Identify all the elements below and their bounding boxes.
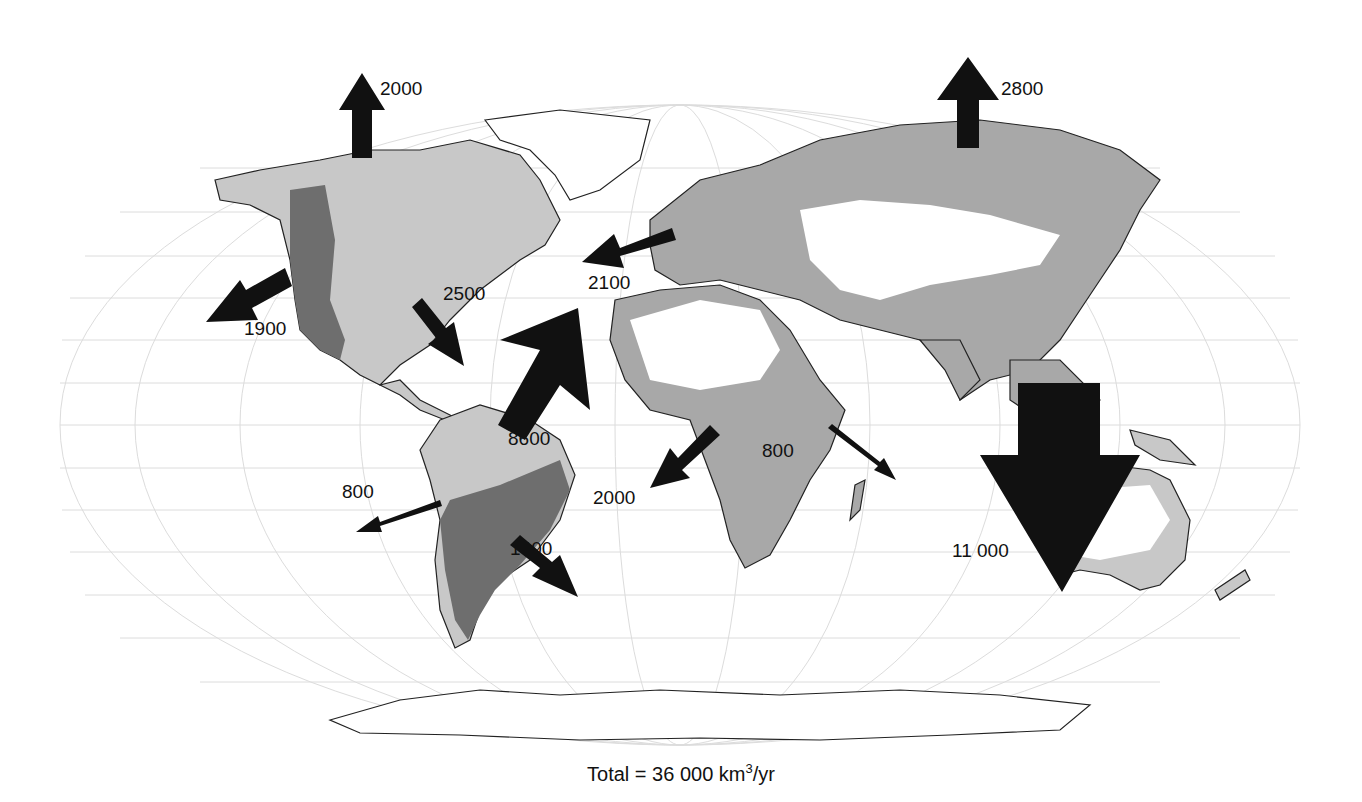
antarctica [330, 690, 1090, 740]
flow-label-south-america-south-atlantic: 1400 [510, 538, 552, 560]
arrow-africa-indian [828, 424, 896, 480]
caption-text: Total = 36 000 km [587, 763, 745, 785]
flow-label-europe-atlantic: 2100 [588, 272, 630, 294]
caption-superscript: 3 [745, 761, 752, 776]
flow-label-south-america-pacific: 800 [342, 481, 374, 503]
flow-label-asia-indo-pacific: 11 000 [952, 540, 1009, 562]
flow-label-africa-indian: 800 [762, 440, 794, 462]
total-caption: Total = 36 000 km3/yr [0, 761, 1362, 786]
central-america [380, 380, 460, 420]
flow-label-eurasia-arctic: 2800 [1001, 78, 1043, 100]
arrow-north-america-pacific [206, 268, 292, 322]
caption-unit: /yr [753, 763, 775, 785]
flow-label-north-america-pacific: 1900 [244, 318, 286, 340]
arrow-south-america-pacific [356, 500, 442, 532]
flow-label-south-america-atlantic: 8600 [508, 428, 550, 450]
world-map [0, 0, 1362, 802]
flow-label-africa-atlantic: 2000 [593, 487, 635, 509]
flow-label-north-america-arctic: 2000 [380, 78, 422, 100]
arrow-south-america-atlantic [498, 308, 590, 440]
new-guinea [1130, 430, 1195, 465]
flow-label-north-america-atlantic: 2500 [443, 283, 485, 305]
north-america [215, 140, 560, 385]
